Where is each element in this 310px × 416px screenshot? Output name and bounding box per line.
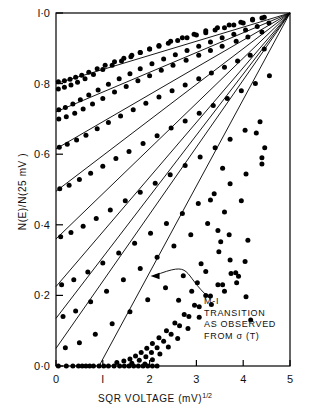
data-point [91,364,96,369]
annotation-line-2: AS OBSERVED [204,319,276,331]
data-point [143,354,148,359]
data-point [236,274,241,279]
data-point [83,133,88,138]
data-point [57,186,62,191]
data-point [266,20,271,25]
mi-transition-annotation: M-I TRANSITION AS OBSERVED FROM σ (T) [204,296,276,342]
data-point [106,120,111,125]
data-point [231,23,236,28]
data-point [63,105,68,110]
data-point [150,341,155,346]
data-point [58,234,63,239]
x-tick-label: 4 [240,373,246,385]
data-point [259,162,264,167]
data-point [113,156,118,161]
data-point [100,164,105,169]
data-point [262,15,267,20]
data-point [192,32,197,37]
data-point [208,198,213,203]
data-point [56,107,61,112]
data-point [227,232,232,237]
data-point [177,323,182,328]
data-point [215,228,220,233]
data-point [245,238,250,243]
data-point [73,308,78,313]
data-point [138,190,143,195]
data-point [220,35,225,40]
data-point [169,126,174,131]
data-point [156,335,161,340]
data-point [262,47,267,52]
data-point [171,63,176,68]
data-point [197,304,202,309]
data-point [175,336,180,341]
data-point [142,361,147,366]
data-point [127,149,132,154]
data-point [119,59,124,64]
data-point [183,119,188,124]
data-point [161,339,166,344]
data-point [250,17,255,22]
data-point [67,183,72,188]
data-point [196,53,201,58]
data-point [138,266,143,271]
data-point [267,73,272,78]
data-point [208,48,213,53]
data-point [148,231,153,236]
data-point [63,345,68,350]
data-point [255,24,260,29]
data-point [74,138,79,143]
data-point [157,351,162,356]
data-point [137,358,142,363]
scatter-plot: 0l23450·00·20·40·60·8l·0 [0,0,310,416]
data-point [254,131,259,136]
data-point [59,282,64,287]
data-point [56,364,61,369]
data-point [212,191,217,196]
data-point [141,141,146,146]
data-point [86,92,91,97]
data-point [183,83,188,88]
data-point [220,44,225,49]
data-point [91,72,96,77]
data-point [68,83,73,88]
data-point [56,79,61,84]
data-point [106,364,111,369]
data-point [216,249,221,254]
data-point [128,54,133,59]
data-point [245,35,250,40]
data-point [64,364,69,369]
data-point [68,230,73,235]
data-point [144,346,149,351]
annotation-line-3: FROM σ (T) [204,331,276,343]
data-point [205,221,210,226]
x-tick-label: l [102,373,104,385]
x-tick-label: 5 [287,373,293,385]
data-point [86,70,91,75]
data-point [121,277,126,282]
data-point [161,56,166,61]
data-point [64,114,69,119]
data-point [155,364,160,369]
data-point [65,142,70,147]
data-point [243,259,248,264]
data-point [81,107,86,112]
data-point [108,207,113,212]
data-point [180,211,185,216]
annotation-line-1: TRANSITION [204,308,276,320]
data-point [155,255,160,260]
data-point [114,360,119,365]
data-point [71,277,76,282]
data-point [228,137,233,142]
data-point [176,298,181,303]
data-point [131,107,136,112]
data-point [222,65,227,70]
data-point [156,43,161,48]
x-tick-label: 3 [193,373,199,385]
data-point [127,71,132,76]
data-point [248,53,253,58]
data-point [62,78,67,83]
data-point [229,271,234,276]
data-point [171,243,176,248]
data-point [258,119,263,124]
